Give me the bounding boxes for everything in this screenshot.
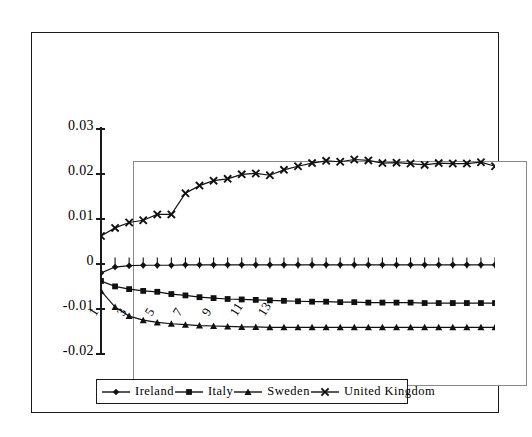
data-point-diamond [421, 262, 428, 269]
legend-item-sweden[interactable]: Sweden [233, 384, 310, 399]
data-point-diamond [168, 262, 175, 269]
data-point-square [211, 295, 217, 301]
y-axis-tick-label: -0.02 [28, 343, 94, 359]
data-point-square [186, 389, 192, 395]
data-point-diamond [252, 262, 259, 269]
data-point-square [183, 293, 189, 299]
data-point-square [225, 296, 231, 302]
y-axis-labels: 0.030.020.010-0.01-0.02 [28, 0, 94, 437]
series-italy [101, 278, 495, 306]
data-point-diamond [267, 262, 274, 269]
data-point-square [492, 300, 495, 306]
data-point-triangle [101, 287, 105, 293]
y-axis-tick-mark [96, 263, 105, 265]
data-point-square [422, 300, 428, 306]
data-point-square [464, 300, 470, 306]
data-point-diamond [435, 262, 442, 269]
chart-legend: IrelandItalySwedenUnited Kingdom [96, 379, 408, 404]
data-point-square [394, 300, 400, 306]
legend-label: Italy [206, 384, 233, 399]
data-point-diamond [126, 262, 133, 269]
data-point-square [337, 299, 343, 305]
data-point-diamond [210, 262, 217, 269]
data-point-diamond [224, 262, 231, 269]
data-point-diamond [154, 262, 161, 269]
data-point-diamond [393, 262, 400, 269]
legend-item-ireland[interactable]: Ireland [101, 384, 174, 399]
data-point-diamond [492, 262, 495, 269]
data-point-diamond [238, 262, 245, 269]
data-point-diamond [407, 262, 414, 269]
data-point-diamond [140, 262, 147, 269]
y-axis-tick-mark [96, 173, 105, 175]
data-point-square [309, 299, 315, 305]
data-point-diamond [351, 262, 358, 269]
data-point-diamond [182, 262, 189, 269]
data-point-cross [182, 190, 189, 197]
legend-label: United Kingdom [342, 384, 435, 399]
data-point-diamond [112, 264, 119, 271]
y-axis-tick-label: 0.03 [28, 118, 94, 134]
data-point-diamond [449, 262, 456, 269]
data-point-square [380, 300, 386, 306]
y-axis-tick-mark [96, 308, 105, 310]
cross-marker-icon [310, 385, 340, 399]
series-ireland [101, 262, 495, 277]
data-point-diamond [295, 262, 302, 269]
data-point-square [101, 278, 104, 284]
data-point-square [112, 284, 118, 290]
legend-item-united-kingdom[interactable]: United Kingdom [310, 384, 435, 399]
data-point-diamond [337, 262, 344, 269]
series-united-kingdom [101, 156, 495, 240]
data-point-diamond [464, 262, 471, 269]
data-point-square [168, 291, 174, 297]
data-point-diamond [365, 262, 372, 269]
data-point-diamond [379, 262, 386, 269]
data-point-square [478, 300, 484, 306]
series-line [101, 291, 495, 327]
triangle-marker-icon [233, 385, 263, 399]
y-axis-tick-mark [96, 218, 105, 220]
data-point-cross [101, 232, 105, 239]
y-axis-tick-label: 0.02 [28, 163, 94, 179]
data-point-diamond [196, 262, 203, 269]
data-point-square [323, 299, 329, 305]
data-point-cross [280, 166, 287, 173]
chart-screenshot: 0.030.020.010-0.01-0.02 135791113 Irelan… [0, 0, 532, 437]
y-axis-tick-label: 0 [28, 253, 94, 269]
data-point-diamond [113, 388, 120, 395]
data-point-square [140, 288, 146, 294]
data-point-square [253, 297, 259, 303]
square-marker-icon [174, 385, 204, 399]
data-point-diamond [309, 262, 316, 269]
legend-label: Ireland [133, 384, 174, 399]
legend-label: Sweden [265, 384, 310, 399]
data-point-square [295, 298, 301, 304]
y-axis-tick-label: -0.01 [28, 298, 94, 314]
data-point-square [267, 297, 273, 303]
data-point-cross [196, 182, 203, 189]
data-point-diamond [323, 262, 330, 269]
data-point-square [436, 300, 442, 306]
data-point-square [450, 300, 456, 306]
data-point-diamond [281, 262, 288, 269]
data-point-square [197, 294, 203, 300]
diamond-marker-icon [101, 385, 131, 399]
data-point-square [408, 300, 414, 306]
data-point-square [154, 289, 160, 295]
data-point-square [365, 300, 371, 306]
data-point-square [239, 297, 245, 303]
series-line [101, 160, 495, 237]
y-axis-tick-label: 0.01 [28, 208, 94, 224]
y-axis-tick-mark [96, 353, 105, 355]
y-axis-tick-mark [96, 128, 105, 130]
series-canvas [101, 128, 495, 353]
data-point-cross [111, 224, 118, 231]
data-point-square [126, 286, 132, 292]
data-point-square [281, 298, 287, 304]
data-point-diamond [478, 262, 485, 269]
data-point-square [351, 299, 357, 305]
legend-item-italy[interactable]: Italy [174, 384, 233, 399]
data-point-diamond [101, 270, 104, 277]
